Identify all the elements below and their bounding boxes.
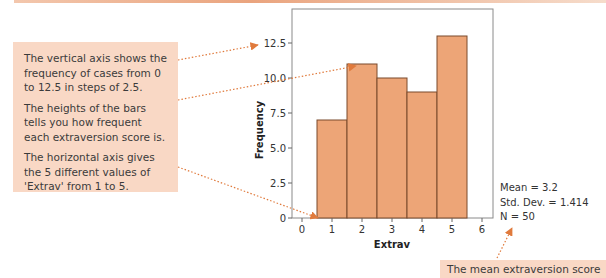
x-tick-label: 0 <box>299 224 305 235</box>
x-tick-label: 1 <box>329 224 335 235</box>
x-axis-title: Extrav <box>374 239 411 250</box>
x-tick-label: 5 <box>449 224 455 235</box>
stat-std-dev: Std. Dev. = 1.414 <box>500 196 589 211</box>
x-axis: 0123456 <box>299 218 485 235</box>
arrow-mean <box>497 228 512 258</box>
arrow-vertical-axis <box>178 45 258 60</box>
bar-4 <box>407 92 437 218</box>
stat-n: N = 50 <box>500 210 589 225</box>
x-tick-label: 6 <box>479 224 485 235</box>
y-tick-label: 12.5 <box>264 38 286 49</box>
y-tick-label: 5.0 <box>270 143 286 154</box>
y-tick-label: 7.5 <box>270 108 286 119</box>
y-tick-label: 2.5 <box>270 178 286 189</box>
bar-5 <box>437 36 467 218</box>
x-tick-label: 2 <box>359 224 365 235</box>
stat-mean: Mean = 3.2 <box>500 181 589 196</box>
x-tick-label: 3 <box>389 224 395 235</box>
bar-3 <box>377 78 407 218</box>
bar-1 <box>317 120 347 218</box>
y-axis: 02.55.07.510.012.5 <box>264 38 292 224</box>
x-tick-label: 4 <box>419 224 425 235</box>
y-tick-label: 0 <box>280 213 286 224</box>
bar-2 <box>347 64 377 218</box>
histogram-chart: 02.55.07.510.012.5 0123456 Extrav Freque… <box>0 0 606 278</box>
stats-box: Mean = 3.2 Std. Dev. = 1.414 N = 50 <box>500 181 589 225</box>
y-axis-title: Frequency <box>254 100 265 159</box>
